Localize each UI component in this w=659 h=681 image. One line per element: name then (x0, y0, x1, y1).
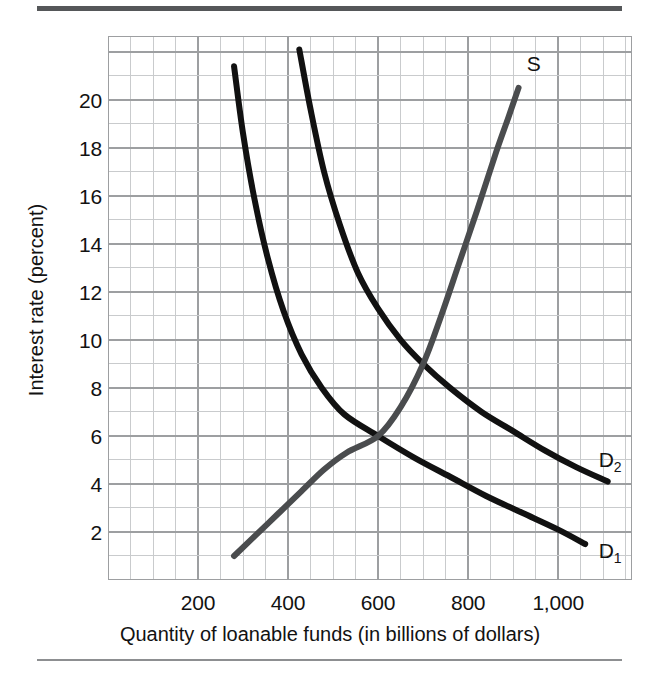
curves-layer (108, 36, 632, 580)
top-rule-divider (37, 6, 622, 11)
y-tick-label-18: 18 (58, 138, 102, 159)
y-tick-label-20: 20 (58, 90, 102, 111)
curve-label-s: S (527, 53, 541, 74)
bottom-rule-divider (37, 659, 622, 661)
curve-label-d2: D2 (599, 449, 622, 474)
x-tick-label-200: 200 (181, 592, 215, 613)
x-tick-label-1000: 1,000 (532, 592, 584, 613)
x-tick-label-800: 800 (451, 592, 485, 613)
y-tick-label-6: 6 (58, 426, 102, 447)
y-axis-title: Interest rate (percent) (26, 120, 46, 480)
x-axis-tick-labels: 2004006008001,000 (108, 592, 632, 618)
y-tick-label-16: 16 (58, 186, 102, 207)
curve-label-d1: D1 (599, 540, 622, 565)
y-axis-tick-labels: 2468101214161820 (56, 36, 102, 580)
y-tick-label-8: 8 (58, 378, 102, 399)
x-axis-title: Quantity of loanable funds (in billions … (40, 623, 620, 645)
y-tick-label-4: 4 (58, 474, 102, 495)
y-tick-label-14: 14 (58, 234, 102, 255)
y-tick-label-10: 10 (58, 330, 102, 351)
y-tick-label-2: 2 (58, 522, 102, 543)
x-tick-label-400: 400 (271, 592, 305, 613)
curve-d1 (234, 66, 585, 544)
x-tick-label-600: 600 (361, 592, 395, 613)
y-tick-label-12: 12 (58, 282, 102, 303)
figure-container: 2468101214161820 2004006008001,000 Inter… (0, 0, 659, 681)
curve-s (234, 88, 519, 556)
plot-area (108, 36, 632, 580)
